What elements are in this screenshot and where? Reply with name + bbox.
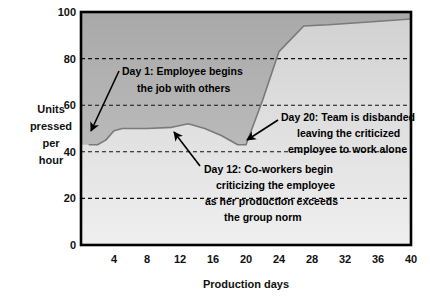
y-axis-title-line-4: hour (39, 154, 64, 166)
annotation-day-12-line-1: Day 12: Co-workers begin (204, 163, 333, 175)
annotation-day-20-line-3: employee to work alone (288, 143, 407, 155)
chart-figure: 020406080100 481216202428323640 Units pr… (0, 0, 430, 300)
annotation-day-12-line-3: as her production exceeds (205, 195, 338, 207)
y-axis-title-line-3: per (42, 137, 60, 149)
y-axis-title-line-1: Units (37, 103, 65, 115)
y-tick-label-20: 20 (64, 192, 76, 204)
annotation-day-1-line-1: Day 1: Employee begins (122, 65, 243, 77)
x-tick-label-36: 36 (372, 253, 384, 265)
x-tick-label-20: 20 (240, 253, 252, 265)
y-tick-label-100: 100 (58, 6, 76, 18)
x-tick-label-16: 16 (207, 253, 219, 265)
y-tick-label-40: 40 (64, 146, 76, 158)
x-tick-label-32: 32 (339, 253, 351, 265)
x-tick-label-8: 8 (144, 253, 150, 265)
x-tick-label-28: 28 (306, 253, 318, 265)
x-axis-title: Production days (203, 278, 289, 290)
annotation-day-20-line-2: leaving the criticized (297, 127, 400, 139)
x-tick-label-12: 12 (174, 253, 186, 265)
x-tick-label-24: 24 (273, 253, 286, 265)
y-tick-label-60: 60 (64, 99, 76, 111)
y-axis-title-line-2: pressed (30, 120, 72, 132)
y-tick-label-0: 0 (70, 239, 76, 251)
x-tick-label-40: 40 (405, 253, 417, 265)
line-chart: 020406080100 481216202428323640 Units pr… (0, 0, 430, 300)
annotation-day-12-line-4: the group norm (224, 211, 302, 223)
annotation-day-12-line-2: criticizing the employee (216, 179, 335, 191)
annotation-day-20-line-1: Day 20: Team is disbanded (281, 111, 415, 123)
annotation-day-1-line-2: the job with others (137, 82, 230, 94)
y-tick-label-80: 80 (64, 53, 76, 65)
x-tick-label-4: 4 (111, 253, 118, 265)
x-axis-ticks: 481216202428323640 (111, 253, 417, 265)
